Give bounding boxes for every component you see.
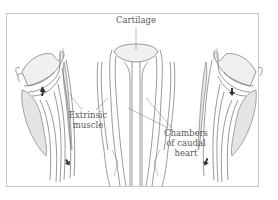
- left-lateral-view: [16, 48, 75, 182]
- chambers-label-line3: heart: [174, 148, 198, 158]
- caudal-heart-diagram: Cartilage Extrinsic muscle Chambers of c…: [0, 0, 278, 200]
- right-lateral-view: [198, 48, 262, 182]
- chambers-label-line2: of caudal: [166, 138, 206, 148]
- cartilage-label: Cartilage: [116, 15, 156, 25]
- right-extrinsic-muscle-outer: [231, 90, 256, 156]
- extrinsic-muscle-label-line1: Extrinsic: [69, 110, 108, 120]
- chambers-label-line1: Chambers: [164, 128, 208, 138]
- extrinsic-muscle-label-line2: muscle: [73, 120, 103, 130]
- right-flow-arrow-upper: [229, 88, 235, 96]
- extrinsic-muscle-leader-left: [68, 92, 82, 110]
- center-frontal-view: [97, 28, 175, 186]
- chambers-leader-1: [128, 108, 168, 128]
- left-extrinsic-muscle-outer: [22, 90, 47, 156]
